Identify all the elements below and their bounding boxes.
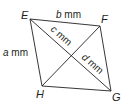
vertex-label-g: G [112,91,121,103]
vertex-label-f: F [101,13,109,25]
vertex-label-e: E [21,9,29,21]
side-fg [100,26,111,91]
diagonal-eg [30,19,111,91]
diagonal-label-c: c mm [49,23,75,47]
vertex-label-h: H [36,88,44,100]
quadrilateral-diagram: E F H G b mm a mm c mm d mm [0,0,126,107]
diagonal-label-d: d mm [80,51,106,76]
side-label-a: a mm [3,47,28,58]
side-ef [30,19,100,26]
side-he [30,19,42,86]
side-gh [42,86,111,91]
side-label-b: b mm [56,9,81,20]
